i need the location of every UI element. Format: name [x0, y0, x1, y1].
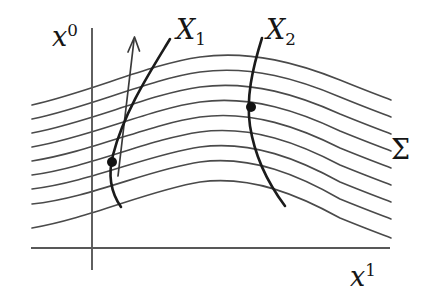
sigma-sheet-6: [32, 131, 391, 185]
x0-axis-label: x0: [52, 22, 78, 50]
worldline-X2-label-base: X: [266, 14, 285, 45]
spacetime-foliation-figure: x0 x1 X1 X2 Σ: [0, 0, 429, 304]
sigma-sheet-1: [32, 55, 391, 105]
time-flow-arrow: [118, 37, 140, 176]
x0-axis-label-superscript: 0: [67, 20, 78, 40]
worldline-X1-label: X1: [176, 16, 206, 48]
event-dot-X1: [107, 157, 117, 167]
x0-axis-label-base: x: [52, 21, 67, 52]
x1-axis-label-base: x: [350, 261, 365, 292]
x1-axis-label: x1: [350, 262, 376, 290]
worldline-X1-label-base: X: [176, 14, 195, 45]
sigma-foliation-label: Σ: [391, 136, 410, 163]
sigma-sheet-4: [32, 100, 391, 151]
sigma-sheet-3: [32, 85, 391, 134]
sigma-foliation-group: [32, 55, 391, 238]
worldline-X2-curve: [249, 38, 285, 206]
sigma-sheet-2: [32, 70, 391, 119]
x1-axis-label-superscript: 1: [365, 260, 376, 280]
worldline-X2-label: X2: [266, 16, 296, 48]
sigma-sheet-8: [32, 161, 391, 219]
sigma-sheet-9: [32, 181, 391, 238]
worldline-X1-label-subscript: 1: [195, 29, 206, 49]
event-dot-X2: [246, 102, 256, 112]
worldline-X2-label-subscript: 2: [285, 29, 296, 49]
